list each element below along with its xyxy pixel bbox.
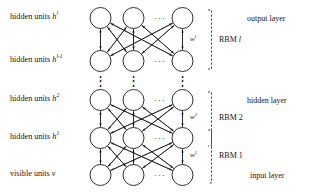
unit-node [172, 128, 193, 149]
unit-node [90, 90, 111, 111]
left-label-layer-h2: hidden units h2 [10, 95, 59, 103]
edge [110, 23, 172, 56]
left-label-text-0: hidden units hl [10, 12, 58, 21]
left-label-text-1: hidden units hl-1 [10, 55, 63, 64]
left-label-layer-v: visible units v [10, 170, 56, 178]
left-label-layer-h1: hidden units h1 [10, 133, 59, 141]
unit-node [90, 128, 111, 149]
rbm-bracket [208, 92, 212, 146]
edge [141, 25, 173, 53]
unit-node [123, 90, 144, 111]
unit-node [123, 8, 144, 29]
left-label-text-2: hidden units h2 [10, 94, 59, 103]
unit-node [123, 51, 144, 72]
right-label-hidden-layer: hidden layer [247, 96, 287, 105]
edge [107, 108, 125, 129]
edge [110, 104, 172, 133]
weight-text-0: wl [190, 35, 196, 43]
unit-node [123, 165, 144, 186]
left-label-text-4: visible units v [10, 169, 56, 178]
unit-node [172, 90, 193, 111]
rbm-label-rbm-l: RBM l [219, 35, 241, 44]
rbm-label-rbm-1: RBM 1 [219, 151, 243, 160]
edge [111, 23, 173, 56]
right-label-output-layer: output layer [247, 14, 285, 23]
horizontal-ellipsis: ··· [154, 13, 167, 23]
weight-label-w-2: w2 [190, 113, 197, 121]
rbm-label-rbm-2: RBM 2 [219, 113, 243, 122]
rbm-text-0: RBM l [219, 35, 241, 44]
unit-node [90, 165, 111, 186]
right-label-input-layer: input layer [250, 171, 284, 180]
vertical-ellipsis: ⋮ [176, 73, 189, 88]
horizontal-ellipsis: ··· [154, 56, 167, 66]
unit-node [172, 165, 193, 186]
weight-text-1: w2 [190, 113, 197, 121]
left-label-layer-hl: hidden units hl [10, 13, 58, 21]
weight-label-w-1: w1 [190, 151, 197, 159]
unit-node [123, 128, 144, 149]
rbm-text-1: RBM 2 [219, 113, 243, 122]
unit-node [172, 51, 193, 72]
horizontal-ellipsis: ··· [154, 95, 167, 105]
rbm-bracket [208, 130, 212, 183]
left-label-text-3: hidden units h1 [10, 132, 59, 141]
edge [142, 144, 173, 168]
weight-text-2: w1 [190, 151, 197, 159]
horizontal-ellipsis: ··· [154, 133, 167, 143]
rbm-text-2: RBM 1 [219, 151, 243, 160]
vertical-ellipsis: ⋮ [127, 73, 140, 88]
unit-node [90, 8, 111, 29]
edge [111, 142, 173, 170]
unit-node [90, 51, 111, 72]
figure-canvas: ···············⋮⋮⋮ hidden units hl hidde… [0, 0, 314, 192]
rbm-bracket [208, 10, 212, 69]
left-label-layer-hlm1: hidden units hl-1 [10, 56, 63, 64]
weight-label-w-l: wl [190, 35, 196, 43]
vertical-ellipsis: ⋮ [94, 73, 107, 88]
edge [110, 142, 172, 170]
unit-node [172, 8, 193, 29]
horizontal-ellipsis: ··· [154, 170, 167, 180]
edge [107, 146, 125, 166]
edge [142, 106, 173, 130]
edge [142, 25, 174, 53]
edge [111, 104, 173, 133]
